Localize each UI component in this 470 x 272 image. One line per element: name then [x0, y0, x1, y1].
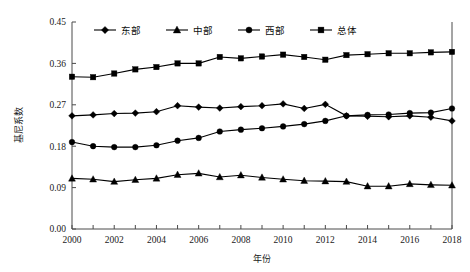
data-point-西部: [407, 110, 413, 116]
data-point-总体: [69, 74, 74, 79]
data-point-西部: [154, 142, 160, 148]
x-tick-label: 2010: [274, 235, 293, 245]
data-point-西部: [301, 121, 307, 127]
data-point-西部: [322, 118, 328, 124]
chart-background: [0, 0, 470, 272]
y-tick-label: 0.00: [49, 224, 66, 234]
data-point-西部: [449, 106, 455, 112]
x-tick-label: 2008: [231, 235, 250, 245]
data-point-西部: [365, 112, 371, 118]
chart-container: 0.000.090.180.270.360.45 200020022004200…: [0, 0, 470, 272]
data-point-总体: [280, 52, 285, 57]
legend-marker-circle: [246, 27, 252, 33]
y-tick-label: 0.18: [49, 142, 66, 152]
data-point-总体: [196, 61, 201, 66]
data-point-总体: [133, 67, 138, 72]
data-point-西部: [90, 143, 96, 149]
x-tick-label: 2004: [147, 235, 166, 245]
data-point-西部: [175, 138, 181, 144]
data-point-总体: [344, 52, 349, 57]
data-point-总体: [259, 54, 264, 59]
data-point-西部: [344, 113, 350, 119]
y-tick-label: 0.27: [49, 100, 66, 110]
data-point-总体: [323, 57, 328, 62]
data-point-总体: [217, 54, 222, 59]
y-axis-title: 基尼系数: [13, 107, 24, 143]
data-point-总体: [449, 49, 454, 54]
y-tick-label: 0.09: [49, 183, 66, 193]
data-point-西部: [428, 110, 434, 116]
x-tick-label: 2000: [63, 235, 82, 245]
x-tick-label: 2002: [105, 235, 124, 245]
data-point-总体: [365, 52, 370, 57]
data-point-总体: [90, 75, 95, 80]
y-tick-label: 0.36: [49, 59, 66, 69]
x-tick-label: 2012: [316, 235, 335, 245]
legend-label-总体: 总体: [337, 25, 357, 36]
y-tick-label: 0.45: [49, 17, 66, 27]
legend-marker-square: [318, 27, 324, 33]
data-point-西部: [217, 129, 223, 135]
legend-label-中部: 中部: [193, 25, 213, 36]
data-point-总体: [238, 56, 243, 61]
data-point-总体: [302, 54, 307, 59]
data-point-西部: [196, 135, 202, 141]
x-tick-label: 2018: [443, 235, 462, 245]
legend-label-东部: 东部: [121, 25, 141, 36]
data-point-西部: [238, 127, 244, 133]
data-point-西部: [132, 144, 138, 150]
data-point-西部: [111, 144, 117, 150]
data-point-总体: [175, 61, 180, 66]
legend-label-西部: 西部: [265, 25, 285, 36]
data-point-西部: [280, 124, 286, 130]
gini-coefficient-line-chart: 0.000.090.180.270.360.45 200020022004200…: [0, 0, 470, 272]
x-tick-label: 2014: [358, 235, 377, 245]
x-tick-label: 2016: [400, 235, 419, 245]
x-axis-title: 年份: [253, 253, 271, 264]
x-tick-label: 2006: [189, 235, 208, 245]
data-point-总体: [154, 64, 159, 69]
data-point-西部: [259, 125, 265, 131]
data-point-总体: [386, 51, 391, 56]
data-point-总体: [428, 50, 433, 55]
data-point-总体: [112, 71, 117, 76]
data-point-西部: [69, 139, 75, 145]
data-point-西部: [386, 112, 392, 118]
data-point-总体: [407, 51, 412, 56]
